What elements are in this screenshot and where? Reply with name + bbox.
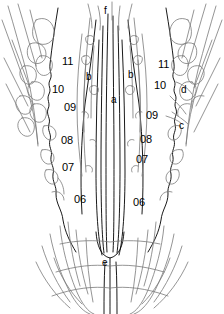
label-left-10: 10 <box>52 84 64 95</box>
label-right-07: 07 <box>136 154 148 165</box>
label-b-left: b <box>86 72 92 82</box>
label-right-08: 08 <box>140 134 152 145</box>
label-left-08: 08 <box>61 135 73 146</box>
label-right-10: 10 <box>154 80 166 91</box>
label-right-06: 06 <box>133 197 145 208</box>
secondary-texture-group <box>2 2 222 314</box>
line-drawing-illustration <box>0 0 224 314</box>
label-e: e <box>102 258 108 268</box>
label-a: a <box>111 95 117 105</box>
label-left-09: 09 <box>64 102 76 113</box>
label-c: c <box>179 121 184 131</box>
label-left-11: 11 <box>62 56 73 67</box>
label-right-09: 09 <box>146 110 158 121</box>
label-left-07: 07 <box>62 162 74 173</box>
label-d: d <box>181 85 187 95</box>
figure-panel: f b b a d c e 11 10 09 08 07 06 11 10 09… <box>0 0 224 314</box>
label-f: f <box>104 6 107 16</box>
label-left-06: 06 <box>74 194 86 205</box>
label-right-11: 11 <box>158 59 169 70</box>
label-b-right: b <box>128 70 134 80</box>
